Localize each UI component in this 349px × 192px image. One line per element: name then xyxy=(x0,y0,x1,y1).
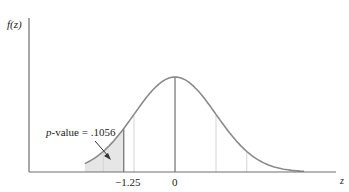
x-axis-label: z xyxy=(340,175,344,186)
p-value-annotation: p-value = .1056 xyxy=(46,126,115,138)
tick-label-zero: 0 xyxy=(172,176,178,188)
normal-distribution-chart xyxy=(0,0,349,192)
tick-label-minus-1.25: −1.25 xyxy=(115,176,140,188)
p-value-text: -value = .1056 xyxy=(52,126,116,138)
y-axis-label: f(z) xyxy=(7,18,22,30)
